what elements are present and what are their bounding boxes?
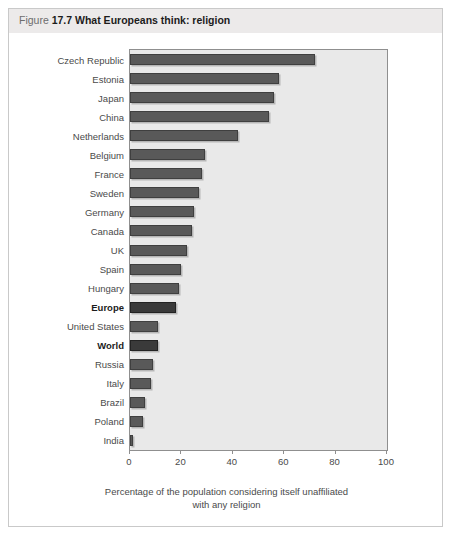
category-label: China (99, 111, 124, 122)
x-axis-tick-label: 100 (378, 456, 394, 467)
figure-number: 17.7 (52, 14, 72, 26)
x-axis-tick-label: 20 (175, 456, 186, 467)
category-label: Belgium (90, 149, 124, 160)
category-label: Brazil (100, 397, 124, 408)
x-axis-caption-line-2: with any religion (49, 498, 404, 511)
x-axis-tick-label: 40 (227, 456, 238, 467)
category-label: Canada (91, 225, 124, 236)
bar-row: Czech Republic (130, 54, 387, 65)
bar-row: United States (130, 321, 387, 332)
bar (130, 187, 199, 198)
x-axis: 020406080100 (129, 450, 388, 451)
bar-row: Japan (130, 92, 387, 103)
bar-row: Canada (130, 225, 387, 236)
bar-row: Netherlands (130, 130, 387, 141)
bar-row: France (130, 168, 387, 179)
category-label: World (97, 340, 124, 351)
category-label: Estonia (92, 73, 124, 84)
x-axis-tick-label: 80 (329, 456, 340, 467)
figure-label-word: Figure (19, 14, 49, 26)
bar (130, 378, 151, 389)
bar (130, 168, 202, 179)
bars-layer: Czech RepublicEstoniaJapanChinaNetherlan… (130, 50, 387, 450)
bar-row: Germany (130, 206, 387, 217)
bar-row: Italy (130, 378, 387, 389)
category-label: Italy (107, 378, 124, 389)
bar-row: Poland (130, 416, 387, 427)
x-axis-tick (180, 450, 181, 454)
category-label: Sweden (90, 187, 124, 198)
bar (130, 359, 153, 370)
x-axis-tick (283, 450, 284, 454)
bar (130, 397, 145, 408)
plot-area: Czech RepublicEstoniaJapanChinaNetherlan… (129, 49, 388, 451)
bar (130, 92, 274, 103)
x-axis-tick (232, 450, 233, 454)
bar-row: Spain (130, 264, 387, 275)
bar (130, 435, 133, 446)
category-label: Hungary (88, 283, 124, 294)
bar (130, 245, 187, 256)
category-label: Japan (98, 92, 124, 103)
bar-row: Europe (130, 302, 387, 313)
x-axis-tick-label: 0 (126, 456, 131, 467)
bar-row: UK (130, 245, 387, 256)
category-label: France (94, 168, 124, 179)
bar (130, 321, 158, 332)
figure-header-band: Figure 17.7 What Europeans think: religi… (9, 9, 442, 33)
bar (130, 130, 238, 141)
bar (130, 73, 279, 84)
category-label: Europe (91, 302, 124, 313)
bar (130, 111, 269, 122)
bar-row: Hungary (130, 283, 387, 294)
figure-title: What Europeans think: religion (75, 14, 230, 26)
bar-row: China (130, 111, 387, 122)
bar-row: Russia (130, 359, 387, 370)
x-axis-tick (335, 450, 336, 454)
category-label: Poland (94, 416, 124, 427)
bar-row: Sweden (130, 187, 387, 198)
figure-header-text: Figure 17.7 What Europeans think: religi… (19, 14, 230, 26)
category-label: Netherlands (73, 130, 124, 141)
category-label: Spain (100, 264, 124, 275)
bar-row: Belgium (130, 149, 387, 160)
bar (130, 283, 179, 294)
bar (130, 302, 176, 313)
category-label: India (103, 435, 124, 446)
bar-row: World (130, 340, 387, 351)
bar (130, 206, 194, 217)
category-label: United States (67, 321, 124, 332)
bar (130, 264, 181, 275)
x-axis-tick (386, 450, 387, 454)
bar-row: India (130, 435, 387, 446)
bar (130, 225, 192, 236)
bar (130, 149, 205, 160)
bar (130, 340, 158, 351)
x-axis-tick-label: 60 (278, 456, 289, 467)
bar (130, 416, 143, 427)
x-axis-caption: Percentage of the population considering… (49, 485, 404, 511)
x-axis-tick (129, 450, 130, 454)
bar-row: Brazil (130, 397, 387, 408)
bar-row: Estonia (130, 73, 387, 84)
bar (130, 54, 315, 65)
category-label: UK (111, 245, 124, 256)
category-label: Russia (95, 359, 124, 370)
figure-frame: Figure 17.7 What Europeans think: religi… (8, 8, 443, 527)
category-label: Germany (85, 206, 124, 217)
category-label: Czech Republic (57, 54, 124, 65)
x-axis-caption-line-1: Percentage of the population considering… (49, 485, 404, 498)
